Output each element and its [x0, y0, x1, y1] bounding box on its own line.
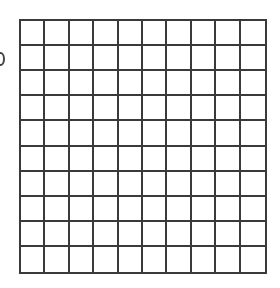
grid-cell: [94, 21, 118, 46]
grid-cell: [45, 121, 69, 146]
grid-cell: [143, 121, 167, 146]
grid-cell: [143, 247, 167, 272]
grid-cell: [21, 172, 45, 197]
grid-cell: [70, 121, 94, 146]
grid-cell: [94, 247, 118, 272]
grid-cell: [21, 71, 45, 96]
grid-cell: [21, 46, 45, 71]
grid-cell: [70, 46, 94, 71]
grid-cell: [119, 222, 143, 247]
grid-cell: [143, 21, 167, 46]
grid-cell: [216, 96, 240, 121]
grid-cell: [94, 197, 118, 222]
grid-cell: [21, 121, 45, 146]
grid-cell: [94, 96, 118, 121]
grid-cell: [21, 96, 45, 121]
grid-cell: [21, 247, 45, 272]
grid-cell: [241, 121, 265, 146]
grid-cell: [45, 197, 69, 222]
partial-glyph: [0, 52, 5, 66]
grid-cell: [119, 121, 143, 146]
grid-cell: [167, 46, 191, 71]
grid-cell: [192, 172, 216, 197]
grid-cell: [94, 222, 118, 247]
grid-cell: [241, 197, 265, 222]
grid-cell: [21, 222, 45, 247]
grid-cell: [216, 172, 240, 197]
grid-cell: [192, 222, 216, 247]
grid-cell: [192, 197, 216, 222]
grid-cell: [119, 21, 143, 46]
grid-cell: [21, 197, 45, 222]
grid-cell: [143, 96, 167, 121]
grid-cell: [241, 96, 265, 121]
grid-cell: [192, 247, 216, 272]
grid-cell: [167, 197, 191, 222]
grid-cell: [119, 96, 143, 121]
grid-cell: [241, 46, 265, 71]
grid-cell: [143, 172, 167, 197]
grid-cell: [241, 21, 265, 46]
grid-cell: [45, 71, 69, 96]
grid-cell: [70, 222, 94, 247]
grid-cell: [216, 46, 240, 71]
grid-cell: [167, 172, 191, 197]
grid-cell: [119, 172, 143, 197]
grid-cell: [21, 21, 45, 46]
grid-cell: [143, 71, 167, 96]
grid-cell: [192, 121, 216, 146]
grid-cell: [119, 197, 143, 222]
grid-cell: [94, 172, 118, 197]
grid-cell: [241, 247, 265, 272]
grid-cell: [216, 21, 240, 46]
grid-cell: [119, 247, 143, 272]
grid-cell: [45, 172, 69, 197]
grid-cell: [45, 21, 69, 46]
grid-cell: [167, 147, 191, 172]
grid-cell: [192, 147, 216, 172]
grid-cell: [167, 96, 191, 121]
grid-cell: [94, 147, 118, 172]
grid-cell: [45, 96, 69, 121]
grid-cell: [94, 121, 118, 146]
square-grid: [19, 19, 267, 274]
grid-cell: [70, 96, 94, 121]
grid-cell: [241, 147, 265, 172]
grid-cell: [216, 71, 240, 96]
grid-cell: [45, 247, 69, 272]
grid-cell: [70, 21, 94, 46]
grid-cell: [167, 247, 191, 272]
grid-cell: [119, 71, 143, 96]
grid-cell: [70, 71, 94, 96]
grid-cell: [241, 71, 265, 96]
grid-cell: [167, 21, 191, 46]
grid-cell: [143, 197, 167, 222]
grid-cell: [70, 247, 94, 272]
grid-cell: [241, 222, 265, 247]
grid-cell: [216, 247, 240, 272]
grid-cell: [70, 172, 94, 197]
grid-cell: [143, 222, 167, 247]
grid-cell: [45, 147, 69, 172]
grid-cell: [143, 147, 167, 172]
grid-cell: [21, 147, 45, 172]
grid-cell: [119, 147, 143, 172]
grid-cell: [45, 222, 69, 247]
grid-cell: [45, 46, 69, 71]
grid-cell: [216, 197, 240, 222]
grid-cell: [192, 71, 216, 96]
grid-cell: [167, 121, 191, 146]
grid-cell: [167, 71, 191, 96]
grid-cell: [143, 46, 167, 71]
grid-cell: [94, 46, 118, 71]
grid-cell: [241, 172, 265, 197]
grid-cell: [192, 21, 216, 46]
grid-cell: [216, 121, 240, 146]
grid-cell: [119, 46, 143, 71]
grid-cell: [192, 96, 216, 121]
grid-cell: [94, 71, 118, 96]
grid-cell: [70, 147, 94, 172]
grid-cell: [192, 46, 216, 71]
grid-cell: [216, 222, 240, 247]
grid-cell: [216, 147, 240, 172]
